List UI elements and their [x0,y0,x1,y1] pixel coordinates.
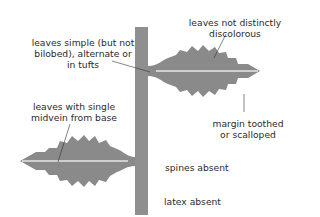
label-line: margin toothed [208,118,288,129]
label-line: midvein from base [22,112,126,123]
label-line: or scalloped [208,129,288,140]
label-line: discolorous [180,28,288,39]
label-margin: margin toothed or scalloped [208,118,288,140]
label-not-discolorous: leaves not distinctly discolorous [180,17,288,39]
label-line: leaves with single [22,101,126,112]
label-leaves-simple: leaves simple (but not bilobed), alterna… [22,37,144,70]
label-line: bilobed), alternate or [22,48,144,59]
label-spines: spines absent [165,162,229,173]
label-line: leaves simple (but not [22,37,144,48]
label-single-midvein: leaves with single midvein from base [22,101,126,123]
label-line: in tufts [22,59,144,70]
label-latex: latex absent [164,196,221,207]
label-line: leaves not distinctly [180,17,288,28]
